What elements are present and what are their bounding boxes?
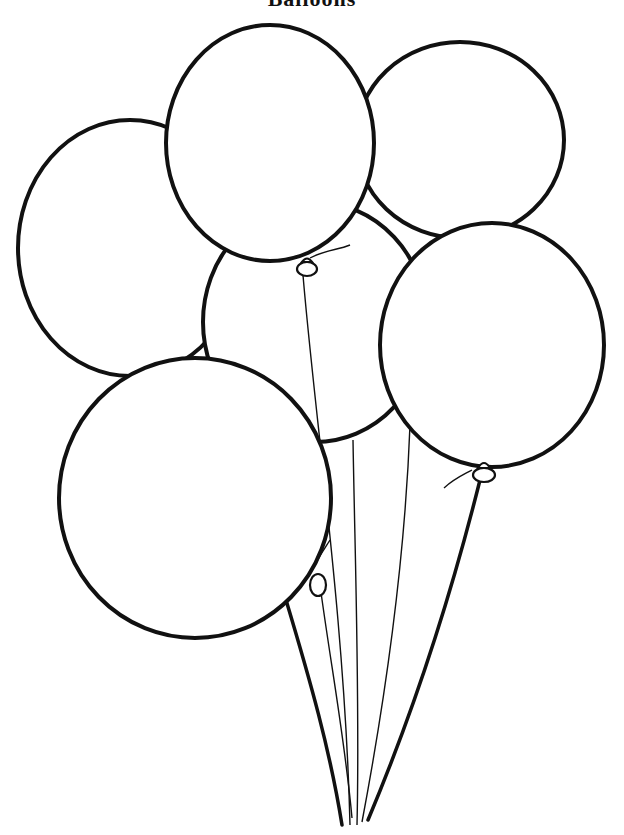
balloon-top-center (166, 25, 374, 261)
balloon-right (380, 223, 604, 467)
balloon-bunch-drawing (0, 0, 624, 835)
balloon-bottom-left (59, 358, 331, 638)
balloon-top-right (356, 42, 564, 238)
